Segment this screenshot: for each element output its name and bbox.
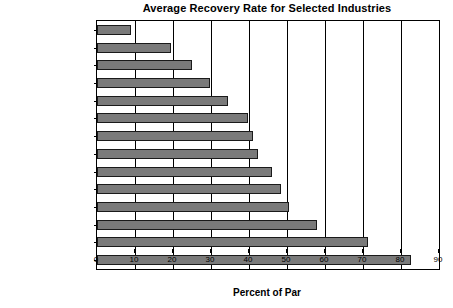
x-axis-tick-label: 60 [309, 255, 339, 264]
bar[interactable] [97, 237, 368, 247]
y-axis-tick [94, 30, 97, 31]
y-axis-tick [94, 189, 97, 190]
bar-row [97, 145, 439, 163]
bar-row [97, 163, 439, 181]
bar[interactable] [97, 43, 171, 53]
bar[interactable] [97, 202, 289, 212]
y-axis-tick [94, 83, 97, 84]
x-axis-tick-label: 90 [423, 255, 453, 264]
y-axis-tick [94, 154, 97, 155]
bar-row [97, 56, 439, 74]
bar[interactable] [97, 131, 253, 141]
bar-row [97, 216, 439, 234]
bar[interactable] [97, 60, 192, 70]
bar[interactable] [97, 184, 281, 194]
x-axis-tick-label: 70 [347, 255, 377, 264]
bar-series [97, 21, 439, 269]
bar-row [97, 39, 439, 57]
y-axis-tick [94, 48, 97, 49]
chart-figure: Average Recovery Rate for Selected Indus… [0, 0, 453, 308]
y-axis-tick [94, 242, 97, 243]
x-axis-tick-label: 30 [195, 255, 225, 264]
bar[interactable] [97, 96, 228, 106]
x-axis-tick [400, 249, 401, 253]
x-axis-tick [172, 249, 173, 253]
x-axis-tick [134, 249, 135, 253]
x-axis-title: Percent of Par [96, 287, 438, 298]
x-axis-tick-label: 0 [81, 255, 111, 264]
bar-row [97, 234, 439, 252]
x-axis-tick-label: 50 [271, 255, 301, 264]
bar[interactable] [97, 25, 131, 35]
bar-row [97, 92, 439, 110]
bar-row [97, 21, 439, 39]
y-axis-tick [94, 207, 97, 208]
bar-row [97, 198, 439, 216]
y-axis-tick [94, 65, 97, 66]
plot-area [96, 20, 440, 270]
chart-title: Average Recovery Rate for Selected Indus… [96, 2, 438, 14]
x-axis-tick [286, 249, 287, 253]
y-axis-tick [94, 136, 97, 137]
bar-row [97, 74, 439, 92]
bar[interactable] [97, 220, 317, 230]
x-axis-tick [96, 249, 97, 253]
x-axis-tick [210, 249, 211, 253]
y-axis-tick [94, 172, 97, 173]
bar-row [97, 127, 439, 145]
x-axis-tick-label: 40 [233, 255, 263, 264]
bar[interactable] [97, 167, 272, 177]
x-axis-tick [438, 249, 439, 253]
x-axis-tick [248, 249, 249, 253]
bar[interactable] [97, 78, 210, 88]
bar[interactable] [97, 113, 248, 123]
bar[interactable] [97, 149, 258, 159]
bar-row [97, 110, 439, 128]
bar-row [97, 180, 439, 198]
y-axis-tick [94, 118, 97, 119]
x-axis-tick-label: 80 [385, 255, 415, 264]
x-axis-tick-label: 20 [157, 255, 187, 264]
y-axis-tick [94, 101, 97, 102]
y-axis-tick [94, 225, 97, 226]
x-axis-tick-label: 10 [119, 255, 149, 264]
x-axis-tick [324, 249, 325, 253]
x-axis-tick [362, 249, 363, 253]
